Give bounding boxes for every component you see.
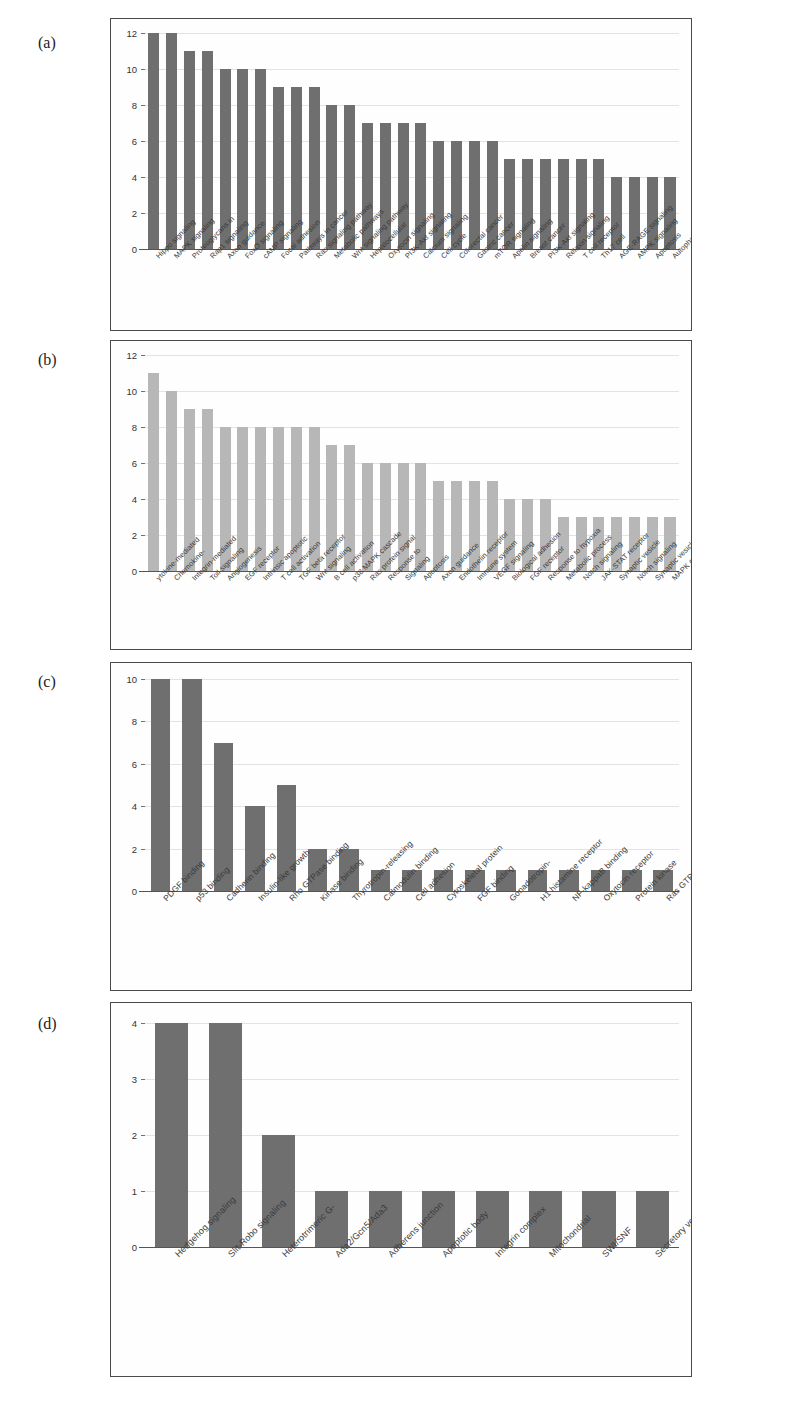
y-tick-label: 10 xyxy=(126,386,137,397)
bar-cell xyxy=(198,33,216,249)
bar-cell xyxy=(465,355,483,571)
bar xyxy=(166,391,177,571)
y-tick-label: 8 xyxy=(132,422,137,433)
chart-panel-a: 024681012Hippo signalingMAPK signalingPr… xyxy=(110,18,692,331)
bar-cell xyxy=(270,355,288,571)
bar xyxy=(262,1135,295,1247)
chart-panel-b: 024681012ytokine-mediatedChemokine-Integ… xyxy=(110,340,692,650)
panel-label-b: (b) xyxy=(38,351,57,369)
y-tick-label: 4 xyxy=(132,172,137,183)
bar-cell xyxy=(145,33,163,249)
bar-cell xyxy=(163,355,181,571)
bar xyxy=(155,1023,188,1247)
bar-series xyxy=(145,679,679,891)
bar xyxy=(636,1191,669,1247)
y-tick-label: 4 xyxy=(132,1018,137,1029)
bar-cell xyxy=(428,679,459,891)
bar-cell xyxy=(626,1023,679,1247)
bar xyxy=(166,33,177,249)
bar-cell xyxy=(163,33,181,249)
y-tick-label: 6 xyxy=(132,758,137,769)
y-tick-label: 0 xyxy=(132,566,137,577)
bar xyxy=(151,679,170,891)
bar-cell xyxy=(554,33,572,249)
x-axis-line xyxy=(139,891,679,892)
y-tick-label: 3 xyxy=(132,1074,137,1085)
panel-label-a: (a) xyxy=(38,34,56,52)
y-tick-label: 12 xyxy=(126,28,137,39)
panel-label-d: (d) xyxy=(38,1015,57,1033)
y-tick-label: 8 xyxy=(132,716,137,727)
bar-cell xyxy=(608,33,626,249)
bar-cell xyxy=(572,1023,625,1247)
bar-cell xyxy=(208,679,239,891)
plot-area: 024681012ytokine-mediatedChemokine-Integ… xyxy=(111,341,691,649)
y-tick-label: 8 xyxy=(132,100,137,111)
plot-area: 024681012Hippo signalingMAPK signalingPr… xyxy=(111,19,691,330)
bar-cell xyxy=(198,355,216,571)
y-tick-label: 2 xyxy=(132,1130,137,1141)
y-tick-label: 2 xyxy=(132,843,137,854)
y-tick-label: 2 xyxy=(132,208,137,219)
x-axis-line xyxy=(139,1247,679,1248)
panel-label-c: (c) xyxy=(38,673,56,691)
bar-cell xyxy=(448,355,466,571)
bar xyxy=(148,373,159,571)
bar-cell xyxy=(626,33,644,249)
bar-cell xyxy=(234,33,252,249)
bar-cell xyxy=(176,679,207,891)
bar-cell xyxy=(287,33,305,249)
y-tick-label: 0 xyxy=(132,244,137,255)
y-tick-label: 10 xyxy=(126,64,137,75)
y-tick-label: 12 xyxy=(126,350,137,361)
bar-cell xyxy=(252,355,270,571)
plot-area: 01234Hedgehog signalingSlit-Robo signali… xyxy=(111,1003,691,1376)
y-tick-label: 4 xyxy=(132,494,137,505)
y-tick-label: 2 xyxy=(132,530,137,541)
bar-cell xyxy=(465,1023,518,1247)
bar-cell xyxy=(145,679,176,891)
plot-area: 0246810PDGF bindingp53 bindingCadherin b… xyxy=(111,663,691,990)
bar-cell xyxy=(430,355,448,571)
y-tick-label: 0 xyxy=(132,1242,137,1253)
bar-cell xyxy=(661,355,679,571)
y-tick-label: 1 xyxy=(132,1186,137,1197)
bar-cell xyxy=(270,33,288,249)
chart-panel-c: 0246810PDGF bindingp53 bindingCadherin b… xyxy=(110,662,692,991)
bar-cell xyxy=(305,33,323,249)
bar-cell xyxy=(490,679,521,891)
bar xyxy=(202,409,213,571)
y-tick-label: 10 xyxy=(126,674,137,685)
bar-cell xyxy=(145,355,163,571)
y-tick-label: 0 xyxy=(132,886,137,897)
y-tick-label: 6 xyxy=(132,136,137,147)
chart-panel-d: 01234Hedgehog signalingSlit-Robo signali… xyxy=(110,1002,692,1377)
y-tick-label: 4 xyxy=(132,801,137,812)
y-tick-label: 6 xyxy=(132,458,137,469)
bar-cell xyxy=(252,33,270,249)
bar-cell xyxy=(145,1023,198,1247)
bar-series xyxy=(145,33,679,249)
bar xyxy=(148,33,159,249)
